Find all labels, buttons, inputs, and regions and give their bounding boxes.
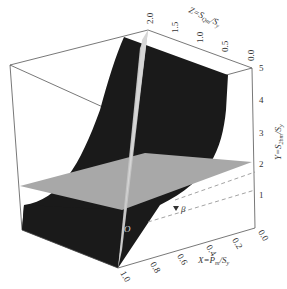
y-axis-ticks: 5 4 3 2 1 [259, 63, 264, 200]
z-axis-label: Z=SQm/Sy [187, 5, 223, 29]
horizontal-plane-shadow [22, 205, 122, 268]
svg-text:0.2: 0.2 [230, 236, 244, 251]
svg-text:1.0: 1.0 [118, 269, 133, 284]
svg-text:0.0: 0.0 [256, 228, 271, 243]
beta-marker-icon [173, 206, 179, 211]
plot-canvas: 5 4 3 2 1 2.0 1.5 1.0 0.5 0.0 0.0 0.2 0.… [0, 0, 287, 289]
svg-text:1: 1 [259, 190, 264, 200]
svg-text:0.8: 0.8 [148, 260, 163, 275]
svg-text:0.6: 0.6 [175, 252, 190, 267]
x-axis-label: X=Pm/Sy [197, 255, 229, 266]
chart-3d-surface: 5 4 3 2 1 2.0 1.5 1.0 0.5 0.0 0.0 0.2 0.… [0, 0, 287, 289]
y-axis-label: Y=S2bm/Sy [273, 124, 284, 160]
beta-label: β [180, 204, 186, 214]
svg-text:2: 2 [259, 159, 264, 169]
x-axis-ticks: 0.0 0.2 0.4 0.6 0.8 1.0 [118, 228, 271, 284]
origin-label: O [124, 224, 131, 234]
svg-text:1.0: 1.0 [195, 31, 205, 43]
svg-text:4: 4 [259, 95, 264, 105]
svg-text:0.0: 0.0 [246, 49, 256, 61]
svg-text:0.5: 0.5 [220, 40, 230, 52]
svg-text:5: 5 [259, 63, 264, 73]
svg-text:1.5: 1.5 [170, 21, 180, 33]
svg-text:3: 3 [259, 128, 264, 138]
svg-text:2.0: 2.0 [145, 12, 155, 24]
